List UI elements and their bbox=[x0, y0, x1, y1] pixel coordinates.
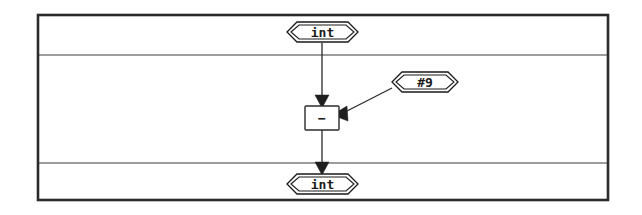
node-label: int bbox=[311, 177, 334, 192]
node-constant[interactable]: #9 bbox=[392, 72, 458, 92]
node-operator-subtract[interactable]: − bbox=[305, 106, 339, 130]
edge-input-to-operator bbox=[315, 43, 329, 108]
node-label: #9 bbox=[417, 75, 433, 90]
node-label: int bbox=[311, 25, 334, 40]
edge-constant-to-operator bbox=[332, 88, 392, 121]
node-output-port[interactable]: int bbox=[287, 174, 358, 194]
arrowhead-down-icon bbox=[315, 162, 329, 175]
dataflow-diagram: int #9 − int bbox=[0, 0, 642, 215]
diagram-canvas: int #9 − int bbox=[0, 0, 642, 215]
edge-operator-to-output bbox=[315, 129, 329, 175]
node-input-port[interactable]: int bbox=[287, 22, 358, 42]
operator-label: − bbox=[318, 111, 326, 126]
